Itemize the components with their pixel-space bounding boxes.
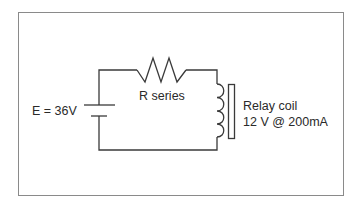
relay-label-line1: Relay coil: [243, 99, 297, 113]
wire-bottom: [99, 116, 217, 150]
relay-coil-icon: [217, 84, 224, 137]
circuit-diagram: E = 36V R series Relay coil 12 V @ 200mA: [0, 0, 358, 207]
resistor-icon: [137, 58, 186, 82]
relay-core-icon: [229, 85, 235, 139]
wire-top-right: [186, 70, 217, 84]
resistor-label: R series: [139, 89, 185, 103]
wire-top-left: [99, 70, 137, 105]
relay-label-line2: 12 V @ 200mA: [243, 115, 329, 129]
source-label: E = 36V: [32, 104, 77, 118]
